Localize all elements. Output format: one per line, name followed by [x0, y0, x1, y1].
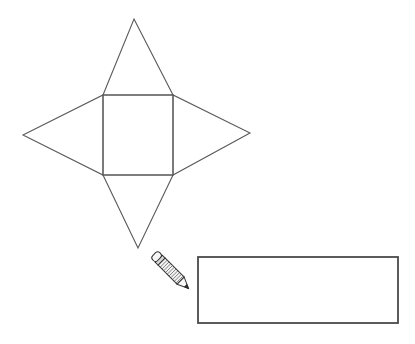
- bottom-triangle: [103, 175, 173, 248]
- square-pyramid-net: [23, 19, 250, 248]
- base-square: [103, 95, 173, 175]
- drawing-canvas: [0, 0, 415, 344]
- answer-rectangle-value[interactable]: [198, 257, 398, 323]
- left-triangle: [23, 95, 103, 175]
- right-triangle: [173, 95, 250, 175]
- top-triangle: [103, 19, 173, 95]
- pencil-barrel: [158, 258, 184, 284]
- pencil-icon: [151, 251, 193, 293]
